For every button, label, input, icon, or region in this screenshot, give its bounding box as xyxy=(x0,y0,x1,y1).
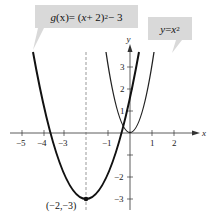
x-tick-label: −1 xyxy=(102,138,112,148)
g-function-label: g(x) = (x + 2)2 − 3 xyxy=(35,5,138,28)
y-axis-label: y xyxy=(126,34,131,44)
x-axis-label: x xyxy=(201,128,206,138)
g-minus: − 3 xyxy=(108,11,122,23)
vertex-label: (−2,−3) xyxy=(46,200,76,211)
y-tick-label: 3 xyxy=(120,62,125,72)
g-callout-pointer xyxy=(33,28,44,50)
g-plus: + 2) xyxy=(86,11,104,23)
y-tick-label: −3 xyxy=(114,194,124,204)
f-function-label: y = x2 xyxy=(148,17,192,40)
f-callout-pointer xyxy=(172,40,182,53)
y-tick-label: 2 xyxy=(120,84,125,94)
x-tick-label: 2 xyxy=(172,138,177,148)
y-axis-arrow-icon xyxy=(128,44,133,52)
x-tick-label: 1 xyxy=(150,138,155,148)
x-tick-label: −4 xyxy=(37,138,47,148)
vertex-point xyxy=(84,197,89,202)
x-tick-label: −3 xyxy=(58,138,68,148)
x-axis-arrow-icon xyxy=(192,131,200,136)
y-tick-label: −2 xyxy=(114,172,124,182)
g-eq: = ( xyxy=(69,11,82,23)
x-tick-label: −5 xyxy=(16,138,26,148)
g-func-var: (x) xyxy=(56,11,69,23)
f-exponent: 2 xyxy=(176,25,180,33)
y-tick-label: 1 xyxy=(120,106,125,116)
